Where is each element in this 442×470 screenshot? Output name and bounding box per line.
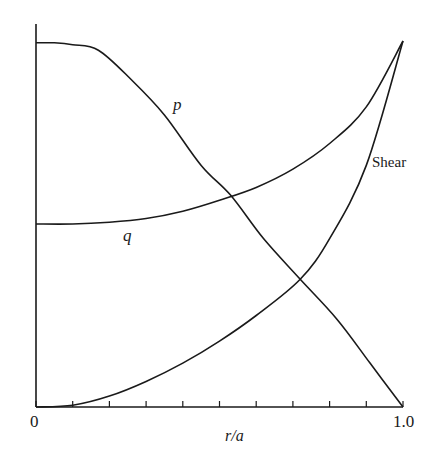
- curve-p: [36, 43, 403, 407]
- curve-label-p: p: [173, 95, 182, 115]
- curve-label-shear: Shear: [372, 154, 406, 171]
- curve-label-q: q: [123, 226, 132, 246]
- x-tick-label-0: 0: [30, 412, 39, 432]
- x-axis-label: r/a: [225, 427, 244, 445]
- curves: [36, 41, 403, 407]
- x-tick-label-1: 1.0: [393, 412, 414, 432]
- line-chart: [0, 0, 442, 470]
- curve-q: [36, 41, 403, 224]
- axes: [36, 24, 403, 407]
